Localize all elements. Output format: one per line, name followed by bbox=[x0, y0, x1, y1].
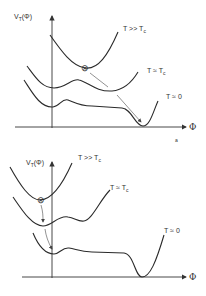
label-t-approx-zero: T ≈ 0 bbox=[166, 93, 182, 100]
curve-t-approx-zero bbox=[33, 233, 164, 277]
ball-icon: ⊗ bbox=[81, 63, 89, 73]
y-axis-label: VT(Φ) bbox=[26, 159, 44, 168]
panel-top: VT(Φ) Φ T >> Tc T ≈ Tc T ≈ 0 ⊗ a bbox=[14, 13, 196, 143]
label-t-approx-tc: T ≈ Tc bbox=[147, 67, 166, 76]
transition-arrow-1 bbox=[90, 73, 108, 87]
panel-bottom: VT(Φ) Φ T >> Tc T ≈ Tc T ≈ 0 ⊗ bbox=[10, 154, 196, 282]
transition-arrow-1 bbox=[41, 205, 43, 222]
phase-transition-diagram: VT(Φ) Φ T >> Tc T ≈ Tc T ≈ 0 ⊗ a VT(Φ) Φ… bbox=[0, 0, 206, 296]
x-axis-label: Φ bbox=[189, 272, 196, 282]
label-t-approx-tc: T ≈ Tc bbox=[110, 184, 129, 193]
y-axis-label: VT(Φ) bbox=[14, 13, 32, 22]
transition-arrow-2 bbox=[45, 229, 52, 249]
x-axis-label: Φ bbox=[189, 122, 196, 132]
label-t-much-greater-tc: T >> Tc bbox=[123, 25, 146, 34]
footnote-mark: a bbox=[175, 137, 178, 143]
curve-t-approx-tc bbox=[13, 190, 110, 226]
label-t-approx-zero: T ≈ 0 bbox=[164, 227, 180, 234]
ball-icon: ⊗ bbox=[37, 195, 45, 205]
label-t-much-greater-tc: T >> Tc bbox=[78, 154, 101, 163]
transition-arrow-2 bbox=[117, 95, 141, 122]
